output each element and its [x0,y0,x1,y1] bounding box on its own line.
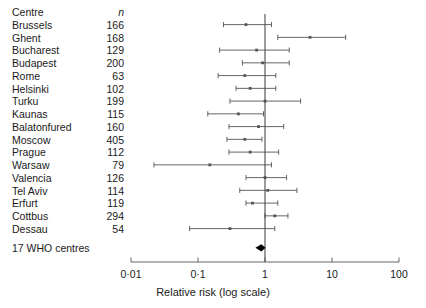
point-estimate-marker [261,61,264,64]
point-estimate-marker [273,214,276,217]
confidence-interval-row [223,22,271,27]
confidence-interval-row [240,188,297,193]
x-axis-tick-label: 10 [326,268,338,280]
confidence-interval-row [227,137,262,142]
confidence-interval-row [236,86,276,91]
confidence-interval-row [229,124,284,129]
interval-group [154,22,346,231]
x-axis-title: Relative risk (log scale) [0,286,426,298]
forest-plot-canvas [0,0,426,308]
point-estimate-marker [257,125,260,128]
point-estimate-marker [255,49,258,52]
confidence-interval-row [154,162,272,167]
point-estimate-marker [243,74,246,77]
confidence-interval-row [218,73,276,78]
x-axis-group [131,258,399,263]
confidence-interval-row [208,111,264,116]
point-estimate-marker [245,23,248,26]
confidence-interval-row [246,175,287,180]
x-axis-tick-label: 100 [390,268,408,280]
confidence-interval-row [246,201,278,206]
summary-diamond [255,244,265,251]
confidence-interval-row [229,150,279,155]
point-estimate-marker [229,227,232,230]
summary-diamond-group [255,244,265,251]
point-estimate-marker [243,138,246,141]
point-estimate-marker [266,189,269,192]
confidence-interval-row [278,35,346,40]
point-estimate-marker [251,202,254,205]
x-axis-tick-label: 0·1 [190,268,205,280]
confidence-interval-row [190,226,275,231]
point-estimate-marker [309,36,312,39]
point-estimate-marker [208,163,211,166]
point-estimate-marker [249,87,252,90]
confidence-interval-row [242,60,289,65]
forest-plot-figure: Centre n Brussels166Ghent168Bucharest129… [0,0,426,308]
x-axis-tick-label: 0·01 [120,268,141,280]
confidence-interval-row [265,213,288,218]
point-estimate-marker [249,151,252,154]
point-estimate-marker [237,112,240,115]
confidence-interval-row [220,48,290,53]
x-axis-tick-label: 1 [262,268,268,280]
